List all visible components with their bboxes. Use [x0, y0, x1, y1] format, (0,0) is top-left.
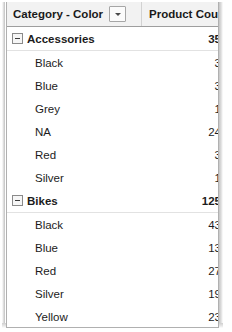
- table-body: Accessories35Black3Blue3Grey1NA24Red3Sil…: [7, 27, 219, 329]
- column-header-category-color-label: Category - Color: [13, 8, 103, 20]
- table-row[interactable]: Silver1: [7, 166, 219, 189]
- group-row[interactable]: Accessories35: [7, 27, 219, 51]
- column-header-product-count[interactable]: Product Count: [142, 2, 220, 27]
- collapse-minus-icon[interactable]: [12, 195, 23, 206]
- product-count-cell: 125: [142, 189, 220, 213]
- row-label-cell: Red: [7, 259, 142, 282]
- row-label: NA: [35, 126, 51, 138]
- row-label: Blue: [35, 242, 58, 254]
- product-count-cell: 24: [142, 120, 220, 143]
- product-count-cell: 3: [142, 74, 220, 97]
- row-label: Grey: [35, 103, 60, 115]
- product-count-cell: 35: [142, 27, 220, 51]
- header-row: Category - Color Product Count: [7, 2, 219, 27]
- table-row[interactable]: Yellow23: [7, 305, 219, 328]
- row-label-cell: Accessories: [7, 27, 142, 51]
- pivot-table: Category - Color Product Count Accessori…: [7, 2, 219, 328]
- panel-left-shadow: [2, 2, 5, 328]
- row-label-cell: Red: [7, 143, 142, 166]
- product-count-cell: 1: [142, 166, 220, 189]
- row-label: Blue: [35, 80, 58, 92]
- column-header-category-color[interactable]: Category - Color: [7, 2, 142, 27]
- table-row[interactable]: Blue13: [7, 236, 219, 259]
- product-count-cell: 43: [142, 213, 220, 237]
- column-header-product-count-label: Product Count: [142, 8, 219, 20]
- chevron-down-glyph: [115, 13, 121, 16]
- row-label: Silver: [35, 288, 64, 300]
- product-count-cell: 3: [142, 143, 220, 166]
- collapse-minus-icon[interactable]: [12, 33, 23, 44]
- row-label-cell: Silver: [7, 282, 142, 305]
- table-row[interactable]: Silver19: [7, 282, 219, 305]
- product-count-cell: 27: [142, 259, 220, 282]
- product-count-cell: 3: [142, 51, 220, 75]
- row-label: Black: [35, 219, 63, 231]
- row-label-cell: Grey: [7, 97, 142, 120]
- row-label-cell: Black: [7, 51, 142, 75]
- panel-right-shadow: [219, 2, 223, 328]
- row-label: Red: [35, 149, 56, 161]
- row-label: Red: [35, 265, 56, 277]
- row-label-cell: NA: [7, 120, 142, 143]
- group-label: Bikes: [27, 195, 58, 207]
- group-row[interactable]: Bikes125: [7, 189, 219, 213]
- table-row[interactable]: Red27: [7, 259, 219, 282]
- row-label: Silver: [35, 172, 64, 184]
- row-label-cell: Bikes: [7, 189, 142, 213]
- table-row[interactable]: Blue3: [7, 74, 219, 97]
- table-row[interactable]: Red3: [7, 143, 219, 166]
- product-count-cell: 13: [142, 236, 220, 259]
- row-label-cell: Yellow: [7, 305, 142, 328]
- table-row[interactable]: Grey1: [7, 97, 219, 120]
- row-label: Yellow: [35, 311, 68, 323]
- row-label-cell: Black: [7, 213, 142, 237]
- row-label-cell: Blue: [7, 74, 142, 97]
- row-label: Black: [35, 57, 63, 69]
- row-label-cell: Blue: [7, 236, 142, 259]
- product-count-cell: 1: [142, 97, 220, 120]
- group-label: Accessories: [27, 33, 95, 45]
- product-count-cell: 23: [142, 305, 220, 328]
- table-row[interactable]: Black3: [7, 51, 219, 75]
- table-row[interactable]: Black43: [7, 213, 219, 237]
- table-row[interactable]: NA24: [7, 120, 219, 143]
- pivot-table-panel: Category - Color Product Count Accessori…: [6, 2, 219, 328]
- table-header: Category - Color Product Count: [7, 2, 219, 27]
- product-count-cell: 19: [142, 282, 220, 305]
- chevron-down-icon[interactable]: [109, 6, 126, 22]
- row-label-cell: Silver: [7, 166, 142, 189]
